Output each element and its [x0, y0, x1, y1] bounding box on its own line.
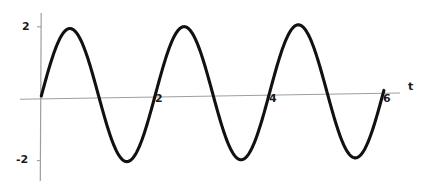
- sine-curve: [41, 25, 384, 162]
- x-axis-tick-label-2: 2: [155, 92, 163, 105]
- x-axis-line: [20, 93, 400, 99]
- y-axis-tick-label-2: 2: [22, 20, 30, 33]
- sine-wave-figure: 2 -2 2 4 6 t: [0, 0, 439, 188]
- x-axis-title: t: [408, 80, 413, 93]
- x-axis-tick-label-6: 6: [383, 92, 391, 105]
- x-axis-tick-label-4: 4: [269, 92, 277, 105]
- y-axis-tick-label-minus-2: -2: [16, 153, 28, 166]
- plot-area: [0, 0, 439, 188]
